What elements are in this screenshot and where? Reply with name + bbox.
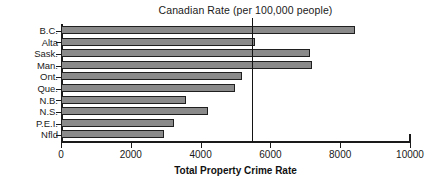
y-axis-tick bbox=[56, 89, 61, 90]
bar bbox=[61, 84, 235, 92]
y-axis-label: Man. bbox=[3, 60, 58, 72]
canadian-rate-reference-line bbox=[252, 18, 253, 142]
bar bbox=[61, 49, 310, 57]
bar-row bbox=[61, 106, 410, 118]
y-axis-tick bbox=[56, 66, 61, 67]
chart-title-text: Canadian Rate (per 100,000 people) bbox=[159, 4, 333, 16]
x-axis-tick bbox=[61, 142, 62, 148]
bar bbox=[61, 96, 186, 104]
x-axis-title: Total Property Crime Rate bbox=[61, 165, 410, 176]
x-axis-tick-label: 0 bbox=[58, 149, 64, 160]
bar-row bbox=[61, 95, 410, 107]
y-axis-label: N.B. bbox=[3, 95, 58, 107]
y-axis-tick bbox=[56, 100, 61, 101]
x-axis-tick bbox=[340, 142, 341, 148]
chart-title: Canadian Rate (per 100,000 people) bbox=[0, 4, 447, 16]
x-axis-tick bbox=[270, 142, 271, 148]
y-axis-label: Nfld bbox=[3, 129, 58, 141]
bar-row bbox=[61, 71, 410, 83]
bar bbox=[61, 26, 355, 34]
bar-row bbox=[61, 60, 410, 72]
y-axis-labels: B.C.AltaSask.Man.Ont.Que.N.B.N.S.P.E.I.N… bbox=[0, 25, 58, 141]
x-axis-tick-label: 8000 bbox=[329, 149, 351, 160]
bar bbox=[61, 38, 255, 46]
x-axis-line bbox=[61, 141, 411, 143]
bar bbox=[61, 130, 164, 138]
bar bbox=[61, 107, 208, 115]
bar bbox=[61, 61, 312, 69]
y-axis-label: N.S. bbox=[3, 106, 58, 118]
y-axis-label: Sask. bbox=[3, 48, 58, 60]
y-axis-label: Alta bbox=[3, 37, 58, 49]
y-axis-tick bbox=[56, 42, 61, 43]
property-crime-rate-bar-chart: Canadian Rate (per 100,000 people) B.C.A… bbox=[0, 0, 447, 185]
bar-row bbox=[61, 118, 410, 130]
x-axis-tick-label: 6000 bbox=[259, 149, 281, 160]
bar-row bbox=[61, 37, 410, 49]
y-axis-tick bbox=[56, 31, 61, 32]
bar bbox=[61, 119, 174, 127]
x-axis-tick-label: 10000 bbox=[396, 149, 424, 160]
y-axis-label: Ont. bbox=[3, 71, 58, 83]
y-axis-tick bbox=[56, 54, 61, 55]
x-axis-tick-label: 4000 bbox=[189, 149, 211, 160]
y-axis-label: P.E.I. bbox=[3, 118, 58, 130]
x-axis-tick bbox=[131, 142, 132, 148]
bar-row bbox=[61, 129, 410, 141]
x-axis-tick bbox=[410, 142, 411, 148]
plot-area bbox=[61, 25, 410, 141]
y-axis-label: Que. bbox=[3, 83, 58, 95]
y-axis-label: B.C. bbox=[3, 25, 58, 37]
y-axis-tick bbox=[56, 112, 61, 113]
y-axis-tick bbox=[56, 77, 61, 78]
y-axis-tick bbox=[56, 124, 61, 125]
x-axis-tick bbox=[201, 142, 202, 148]
bar-row bbox=[61, 48, 410, 60]
y-axis-tick bbox=[56, 135, 61, 136]
bar-row bbox=[61, 83, 410, 95]
bar-row bbox=[61, 25, 410, 37]
x-axis-tick-label: 2000 bbox=[120, 149, 142, 160]
bar bbox=[61, 72, 242, 80]
